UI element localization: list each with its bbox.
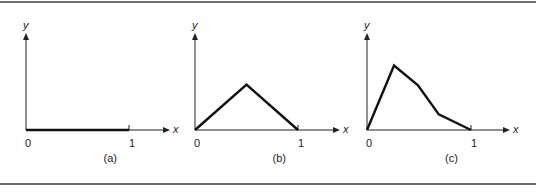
x-axis-label: x bbox=[173, 124, 179, 135]
y-axis-label: y bbox=[23, 20, 29, 31]
tick-label-1: 1 bbox=[298, 138, 304, 149]
function-curve-b bbox=[195, 85, 298, 130]
function-curve-c bbox=[367, 66, 471, 130]
y-axis-arrow-icon bbox=[192, 33, 198, 40]
tick-label-0: 0 bbox=[366, 138, 372, 149]
tick-label-1: 1 bbox=[129, 138, 135, 149]
tick-label-1: 1 bbox=[471, 138, 477, 149]
diagram-canvas bbox=[0, 0, 536, 194]
y-axis-label: y bbox=[192, 20, 198, 31]
tick-label-0: 0 bbox=[25, 138, 31, 149]
x-axis-arrow-icon bbox=[333, 127, 340, 133]
y-axis-arrow-icon bbox=[23, 33, 29, 40]
y-axis-arrow-icon bbox=[364, 33, 370, 40]
x-axis-label: x bbox=[513, 124, 519, 135]
panel-caption-b: (b) bbox=[273, 153, 286, 164]
x-axis-label: x bbox=[343, 124, 349, 135]
x-axis-arrow-icon bbox=[163, 127, 170, 133]
panel-caption-a: (a) bbox=[104, 153, 117, 164]
x-axis-arrow-icon bbox=[503, 127, 510, 133]
panel-caption-c: (c) bbox=[445, 153, 458, 164]
tick-label-0: 0 bbox=[194, 138, 200, 149]
y-axis-label: y bbox=[364, 20, 370, 31]
